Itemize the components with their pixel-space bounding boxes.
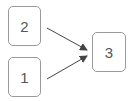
node-3[interactable]: 3: [92, 32, 126, 72]
node-1-label: 1: [20, 69, 28, 86]
node-3-label: 3: [105, 44, 113, 61]
node-1[interactable]: 1: [8, 57, 41, 97]
edge-1-to-3: [47, 56, 87, 79]
node-2-label: 2: [20, 18, 28, 35]
node-2[interactable]: 2: [8, 6, 41, 46]
edge-2-to-3: [47, 28, 87, 50]
